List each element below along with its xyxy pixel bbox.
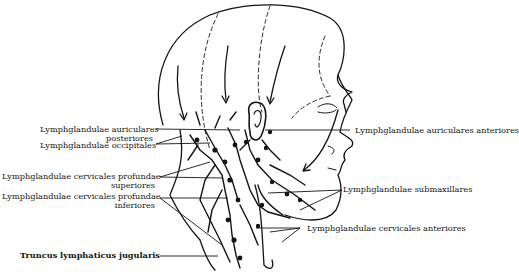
label-line: Lymphglandulae occipitales: [40, 140, 156, 150]
label-occipital: Lymphglandulae occipitales: [40, 141, 153, 150]
leader-deep-cervical-inferior: [160, 198, 228, 245]
leader-occipital: [156, 136, 210, 144]
arrow-face: [304, 110, 338, 170]
dashed-line-3: [319, 36, 330, 96]
lymph-nodes: [195, 130, 303, 261]
label-line: Lymphglandulae cervicales anteriores: [307, 223, 466, 233]
ear: [249, 102, 266, 140]
label-line: Truncus lymphaticus jugularis: [20, 250, 160, 260]
arrow-1: [177, 66, 184, 118]
label-line: Lymphglandulae submaxillares: [343, 184, 472, 194]
neck-back-outline: [170, 130, 215, 270]
label-jugular-trunk: Truncus lymphaticus jugularis: [20, 251, 155, 260]
label-deep-cervical-superior: Lymphglandulae cervicales profundae supe…: [2, 172, 155, 190]
label-anterior-cervical: Lymphglandulae cervicales anteriores: [307, 224, 466, 233]
leader-submaxillary: [268, 190, 342, 210]
leader-deep-cervical-superior: [160, 162, 222, 178]
arrow-2: [225, 46, 228, 100]
label-deep-cervical-inferior: Lymphglandulae cervicales profundae infe…: [2, 192, 155, 210]
label-line: superiores: [2, 181, 155, 190]
label-line: Lymphglandulae auriculares anteriores: [355, 125, 519, 135]
arrow-3: [270, 46, 285, 102]
dashed-line-2: [258, 6, 270, 112]
label-line: inferiores: [2, 201, 155, 210]
face-profile: [285, 75, 353, 220]
label-submaxillary: Lymphglandulae submaxillares: [343, 185, 472, 194]
leader-auricular-posterior: [156, 129, 240, 130]
head-outline: [158, 5, 352, 125]
label-auricular-anterior: Lymphglandulae auriculares anteriores: [355, 126, 519, 135]
eye: [318, 104, 337, 113]
